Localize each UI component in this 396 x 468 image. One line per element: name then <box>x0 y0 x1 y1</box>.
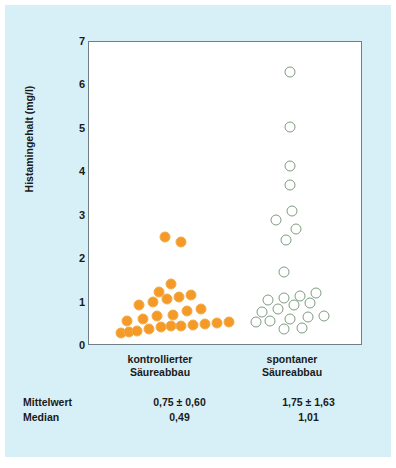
y-tick-2: 2 <box>63 252 85 264</box>
data-point-controlled <box>167 309 178 320</box>
data-point-controlled <box>175 320 186 331</box>
data-point-spontaneous <box>257 307 268 318</box>
data-point-controlled <box>211 318 222 329</box>
data-point-controlled <box>175 236 186 247</box>
x-axis-label-controlled: kontrollierter Säureabbau <box>95 353 225 379</box>
data-point-controlled <box>137 314 148 325</box>
data-point-controlled <box>195 304 206 315</box>
data-point-controlled <box>143 323 154 334</box>
data-point-controlled <box>187 320 198 331</box>
data-point-spontaneous <box>297 322 308 333</box>
table-row: Median 0,49 1,01 <box>23 411 373 426</box>
data-point-controlled <box>121 315 132 326</box>
y-tick-7: 7 <box>63 35 85 47</box>
stat-median-spontaneous: 1,01 <box>244 411 373 426</box>
data-point-spontaneous <box>295 291 306 302</box>
x-axis-label-controlled-line1: kontrollierter <box>95 353 225 366</box>
data-point-spontaneous <box>279 267 290 278</box>
stat-median-controlled: 0,49 <box>115 411 244 426</box>
data-point-controlled <box>185 289 196 300</box>
x-axis-label-spontaneous: spontaner Säureabbau <box>227 353 357 379</box>
plot-area <box>88 41 362 345</box>
stat-mittelwert-spontaneous: 1,75 ± 1,63 <box>244 396 373 411</box>
table-row: Mittelwert 0,75 ± 0,60 1,75 ± 1,63 <box>23 396 373 411</box>
data-point-controlled <box>181 306 192 317</box>
data-point-controlled <box>173 292 184 303</box>
data-point-spontaneous <box>265 315 276 326</box>
data-point-controlled <box>151 311 162 322</box>
data-point-controlled <box>159 231 170 242</box>
data-point-spontaneous <box>291 223 302 234</box>
data-point-controlled <box>147 296 158 307</box>
data-point-spontaneous <box>287 206 298 217</box>
stat-mittelwert-controlled: 0,75 ± 0,60 <box>115 396 244 411</box>
data-point-spontaneous <box>285 121 296 132</box>
data-point-spontaneous <box>271 215 282 226</box>
data-point-controlled <box>199 319 210 330</box>
data-point-spontaneous <box>285 314 296 325</box>
y-axis-title: Histamingehalt (mg/l) <box>23 59 35 219</box>
figure-panel: 7 6 5 4 3 2 1 0 Histamingehalt (mg/l) ko… <box>5 5 391 457</box>
data-point-spontaneous <box>311 288 322 299</box>
data-point-spontaneous <box>279 324 290 335</box>
y-tick-3: 3 <box>63 209 85 221</box>
y-tick-4: 4 <box>63 165 85 177</box>
summary-statistics-table: Mittelwert 0,75 ± 0,60 1,75 ± 1,63 Media… <box>23 396 373 426</box>
y-tick-5: 5 <box>63 122 85 134</box>
data-point-spontaneous <box>279 293 290 304</box>
data-point-spontaneous <box>285 67 296 78</box>
data-point-spontaneous <box>319 310 330 321</box>
data-point-spontaneous <box>285 160 296 171</box>
y-tick-0: 0 <box>63 339 85 351</box>
data-point-spontaneous <box>263 295 274 306</box>
y-tick-6: 6 <box>63 78 85 90</box>
stat-label-mittelwert: Mittelwert <box>23 396 115 411</box>
data-point-spontaneous <box>251 317 262 328</box>
data-point-controlled <box>223 317 234 328</box>
data-point-controlled <box>165 279 176 290</box>
data-point-controlled <box>131 325 142 336</box>
data-point-controlled <box>153 286 164 297</box>
x-axis-label-controlled-line2: Säureabbau <box>95 366 225 379</box>
x-axis-label-spontaneous-line1: spontaner <box>227 353 357 366</box>
data-point-spontaneous <box>305 297 316 308</box>
x-axis-label-spontaneous-line2: Säureabbau <box>227 366 357 379</box>
data-point-controlled <box>133 299 144 310</box>
stat-label-median: Median <box>23 411 115 426</box>
y-tick-1: 1 <box>63 296 85 308</box>
data-point-spontaneous <box>303 312 314 323</box>
data-point-spontaneous <box>285 180 296 191</box>
y-axis: 7 6 5 4 3 2 1 0 <box>57 41 85 345</box>
data-point-spontaneous <box>281 234 292 245</box>
data-point-spontaneous <box>273 304 284 315</box>
